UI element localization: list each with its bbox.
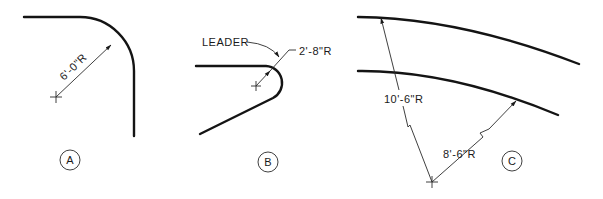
- figure-b-tag: B: [264, 156, 271, 168]
- figure-c: 10'-6"R 8'-6"R C: [358, 17, 579, 188]
- figure-a-corner-arc: [24, 17, 134, 136]
- figure-c-outer-dimension-label: 10'-6"R: [384, 93, 423, 105]
- figure-b-radius-line: [256, 71, 270, 86]
- figure-b-dimension-label: 2'-8"R: [299, 45, 332, 57]
- figure-c-inner-radius-line: [432, 101, 516, 182]
- figure-a: 6'-0"R A: [24, 17, 134, 170]
- figure-c-tag: C: [508, 155, 516, 167]
- figure-c-inner-dimension-label: 8'-6"R: [443, 148, 476, 160]
- figure-a-dimension-label: 6'-0"R: [57, 51, 89, 82]
- figure-b-leader-label: LEADER: [202, 36, 249, 48]
- figure-b: 2'-8"R LEADER B: [196, 36, 332, 172]
- figure-b-leader-callout: [247, 42, 279, 57]
- figure-a-tag: A: [66, 154, 74, 166]
- radius-dimensioning-diagram: 6'-0"R A 2'-8"R LEADER B 10'-6"R 8'-6"R …: [0, 0, 603, 199]
- figure-b-hairpin-arc: [196, 66, 282, 134]
